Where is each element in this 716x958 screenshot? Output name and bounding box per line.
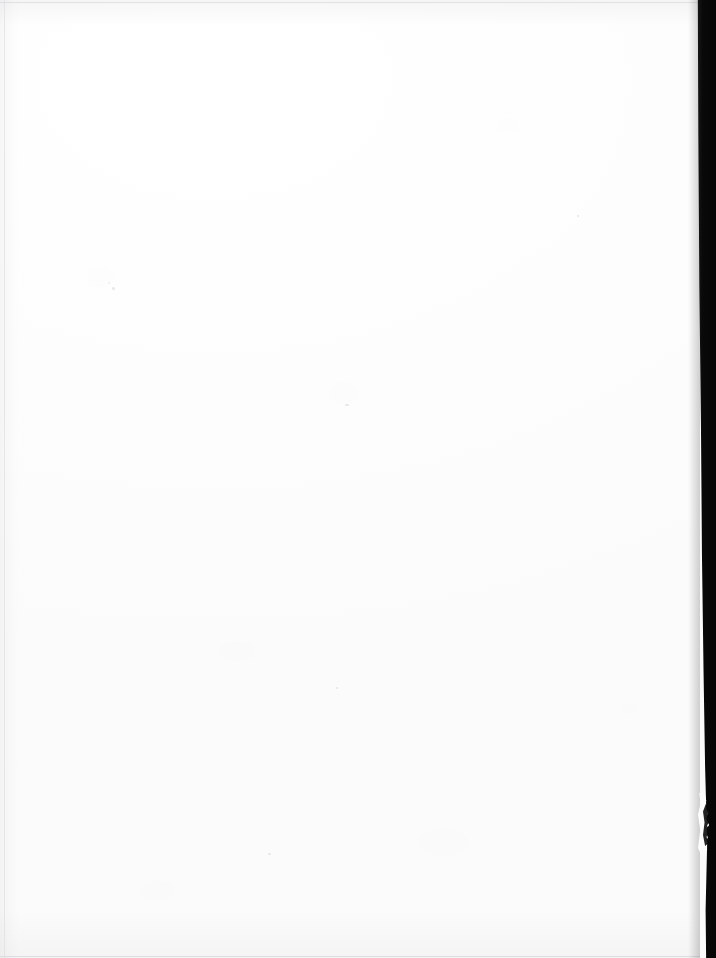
dust-speck <box>112 287 115 290</box>
top-edge-shading <box>0 0 700 26</box>
dust-speck <box>108 282 110 284</box>
left-crop-line <box>4 0 5 958</box>
top-crop-line <box>0 2 700 3</box>
bottom-crop-line <box>0 956 700 957</box>
left-edge-shading <box>0 0 18 958</box>
dust-speck <box>345 404 349 406</box>
dust-speck <box>268 853 271 855</box>
paper-mottle-texture <box>0 0 716 958</box>
scanned-page: Blank scanned page <box>0 0 716 958</box>
dust-speck <box>577 215 579 217</box>
dust-speck <box>336 687 338 689</box>
bottom-edge-shading <box>0 908 700 958</box>
